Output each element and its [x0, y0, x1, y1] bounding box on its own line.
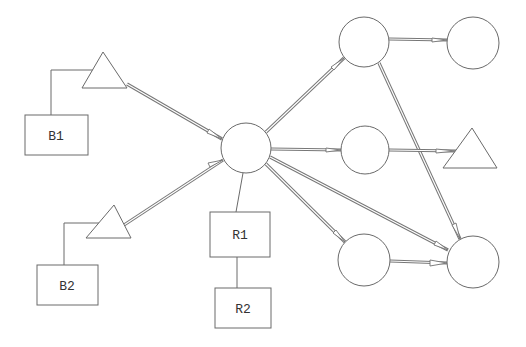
box-b2[interactable]: B2: [37, 265, 98, 305]
edge-triangle1-hub: [127, 84, 222, 139]
middle-right-triangle-node[interactable]: [443, 128, 497, 168]
network-diagram: B1 B2 R1 R2: [0, 0, 526, 347]
label-b2: B2: [59, 279, 75, 294]
edge-triangle2-hub: [124, 160, 223, 225]
hub-circle-node[interactable]: [221, 123, 271, 173]
wire-b1-triangle1: [51, 70, 93, 115]
label-r1: R1: [232, 228, 248, 243]
wire-hub-r1: [236, 173, 243, 212]
triangle-node-2[interactable]: [86, 205, 131, 238]
box-b1[interactable]: B1: [25, 115, 88, 155]
middle-circle-node[interactable]: [341, 126, 389, 174]
label-b1: B1: [48, 129, 64, 144]
bottom-circle-node[interactable]: [338, 234, 390, 286]
top-circle-node[interactable]: [339, 17, 389, 67]
edge-hub-cmid: [271, 148, 341, 152]
edge-ctop-ctopright: [389, 38, 447, 42]
edge-hub-ctop: [266, 58, 344, 132]
edge-cmid-triangle: [389, 149, 456, 153]
arrow-connectors: [124, 38, 460, 266]
box-r2[interactable]: R2: [215, 288, 271, 328]
box-r1[interactable]: R1: [210, 212, 270, 257]
top-right-circle-node[interactable]: [447, 17, 499, 69]
edge-cbottom-cbottomright: [390, 260, 447, 266]
bottom-right-circle-node[interactable]: [447, 236, 499, 288]
label-r2: R2: [235, 302, 251, 317]
